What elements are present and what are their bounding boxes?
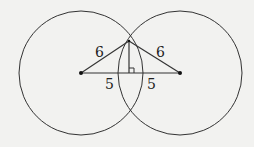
left-radius-line <box>81 41 129 73</box>
label-left-half-base: 5 <box>105 76 114 92</box>
label-right-radius: 6 <box>156 44 165 60</box>
right-center-point <box>178 71 182 75</box>
right-angle-marker <box>129 68 134 73</box>
intersection-point <box>128 40 130 42</box>
right-radius-line <box>129 41 180 73</box>
left-center-point <box>79 71 83 75</box>
geometry-diagram: 6 6 5 5 <box>0 0 254 147</box>
label-left-radius: 6 <box>95 44 104 60</box>
label-right-half-base: 5 <box>147 76 156 92</box>
